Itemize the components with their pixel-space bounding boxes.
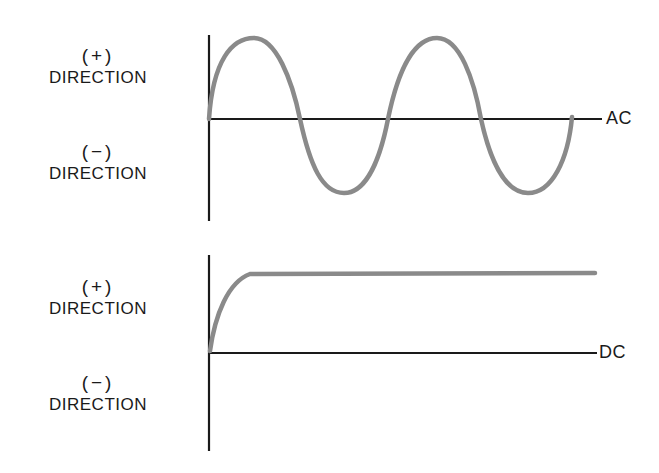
positive-sign: (+) <box>13 45 183 67</box>
dc-panel <box>209 255 597 451</box>
direction-text: DIRECTION <box>49 68 147 87</box>
dc-positive-direction-label: (+) DIRECTION <box>13 276 183 320</box>
dc-series-label: DC <box>599 342 626 363</box>
dc-waveform <box>210 273 595 351</box>
positive-sign: (+) <box>13 276 183 298</box>
negative-sign: (−) <box>13 141 183 163</box>
dc-negative-direction-label: (−) DIRECTION <box>13 372 183 416</box>
ac-sine-waveform <box>209 38 572 193</box>
negative-sign: (−) <box>13 372 183 394</box>
direction-text: DIRECTION <box>49 164 147 183</box>
ac-positive-direction-label: (+) DIRECTION <box>13 45 183 89</box>
ac-series-label: AC <box>606 108 632 129</box>
direction-text: DIRECTION <box>49 299 147 318</box>
direction-text: DIRECTION <box>49 395 147 414</box>
ac-panel <box>209 35 602 221</box>
ac-negative-direction-label: (−) DIRECTION <box>13 141 183 185</box>
